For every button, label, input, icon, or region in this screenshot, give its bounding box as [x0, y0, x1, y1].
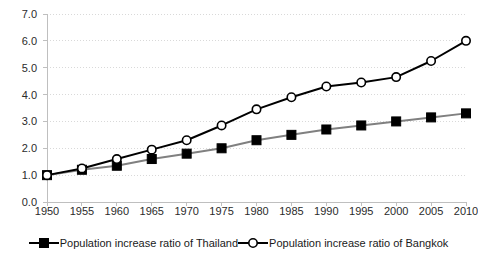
x-axis-tick-label: 2000: [384, 205, 408, 218]
y-axis-tick-label: 5.0: [22, 63, 37, 74]
data-point-marker: [392, 117, 401, 126]
x-axis-tick-label: 1955: [70, 205, 94, 218]
legend-item[interactable]: Population increase ratio of Bangkok: [238, 236, 448, 250]
data-point-marker: [322, 125, 331, 134]
data-point-marker: [462, 37, 470, 45]
x-axis-tick-label: 1970: [174, 205, 198, 218]
y-axis-tick-label: 4.0: [22, 90, 37, 101]
x-axis-tick-label: 1990: [314, 205, 338, 218]
plot-area: [47, 14, 466, 202]
legend-item-label: Population increase ratio of Thailand: [60, 237, 238, 249]
data-point-marker: [322, 82, 330, 90]
chart-legend: Population increase ratio of ThailandPop…: [0, 231, 477, 255]
data-point-marker: [287, 93, 295, 101]
legend-item[interactable]: Population increase ratio of Thailand: [29, 236, 238, 250]
data-point-marker: [287, 130, 296, 139]
x-axis-tick-label: 2005: [419, 205, 443, 218]
y-axis-tick-label: 2.0: [22, 143, 37, 154]
x-axis-tick-label: 1975: [209, 205, 233, 218]
data-point-marker: [357, 121, 366, 130]
x-axis-tick-label: 1980: [244, 205, 268, 218]
data-point-marker: [182, 149, 191, 158]
data-point-marker: [427, 57, 435, 65]
y-axis-tick-label: 6.0: [22, 36, 37, 47]
data-point-marker: [113, 155, 121, 163]
y-axis-tick-label: 3.0: [22, 116, 37, 127]
plot-svg: [47, 14, 466, 202]
legend-item-label: Population increase ratio of Bangkok: [269, 237, 448, 249]
x-axis-tick-label: 1960: [105, 205, 129, 218]
data-point-marker: [217, 144, 226, 153]
legend-circle-marker-icon: [238, 236, 268, 250]
data-point-marker: [252, 105, 260, 113]
data-point-marker: [78, 164, 86, 172]
data-point-marker: [427, 113, 436, 122]
data-series: [43, 37, 471, 180]
data-point-marker: [392, 73, 400, 81]
data-point-marker: [43, 171, 51, 179]
data-point-marker: [147, 155, 156, 164]
data-point-marker: [462, 109, 471, 118]
legend-square-marker-icon: [29, 236, 59, 250]
x-axis-tick-label: 1965: [140, 205, 164, 218]
data-point-marker: [357, 78, 365, 86]
data-point-marker: [252, 136, 261, 145]
data-point-marker: [148, 145, 156, 153]
data-point-marker: [182, 136, 190, 144]
x-axis-tick-label: 1950: [35, 205, 59, 218]
x-axis-tick-label: 2010: [454, 205, 478, 218]
y-axis-tick-label: 1.0: [22, 170, 37, 181]
x-axis-tick-label: 1985: [279, 205, 303, 218]
x-axis-tick-label: 1995: [349, 205, 373, 218]
x-axis: 1950195519601965197019751980198519901995…: [47, 205, 466, 221]
y-axis-tick-label: 7.0: [22, 9, 37, 20]
data-point-marker: [217, 121, 225, 129]
y-axis: 0.01.02.03.04.05.06.07.0: [0, 0, 43, 216]
